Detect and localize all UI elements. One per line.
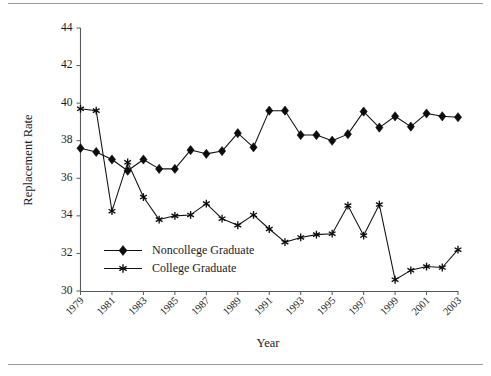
y-tick-label: 34 <box>61 208 73 220</box>
x-tick-label: 1989 <box>221 295 244 318</box>
data-point-marker <box>423 109 430 118</box>
y-axis-title: Replacement Rate <box>21 114 35 206</box>
data-point-marker <box>376 201 383 209</box>
y-tick-label: 38 <box>61 133 73 145</box>
data-point-marker <box>203 149 210 158</box>
data-point-marker <box>392 276 399 284</box>
data-point-marker <box>282 238 289 246</box>
x-tick-label: 1997 <box>346 295 369 318</box>
x-tick-label: 2001 <box>409 295 432 318</box>
x-tick-label: 1987 <box>189 295 212 318</box>
data-point-marker <box>439 112 446 121</box>
x-tick-label: 1983 <box>126 295 149 318</box>
x-tick-label: 1995 <box>315 295 338 318</box>
data-point-marker <box>360 232 367 240</box>
y-tick-label-group: 3032343638404244 <box>61 21 73 296</box>
legend-label-college: College Graduate <box>152 261 236 275</box>
y-tick-label: 42 <box>61 58 73 70</box>
college-graduate-markers <box>77 105 461 284</box>
x-tick-label: 1981 <box>95 295 118 318</box>
y-tick-label: 30 <box>61 284 73 296</box>
data-point-marker <box>329 136 336 145</box>
legend-label-noncollege: Noncollege Graduate <box>152 243 254 257</box>
legend-entry-college: College Graduate <box>104 261 236 275</box>
data-point-marker <box>345 202 352 210</box>
y-tick-group <box>77 28 81 291</box>
data-point-marker <box>313 130 320 139</box>
x-tick-label: 1979 <box>63 295 86 318</box>
data-point-marker <box>108 155 115 164</box>
y-tick-label: 44 <box>61 21 73 33</box>
y-axis: 3032343638404244 <box>61 21 81 296</box>
x-tick-label-group: 1979198119831985198719891991199319951997… <box>63 295 463 318</box>
data-point-marker <box>266 106 273 115</box>
legend-diamond-icon <box>119 246 127 256</box>
y-tick-label: 36 <box>61 171 73 183</box>
data-point-marker <box>407 122 414 131</box>
x-tick-label: 1991 <box>252 295 275 318</box>
x-axis: 1979198119831985198719891991199319951997… <box>63 291 463 317</box>
replacement-rate-line-chart: 3032343638404244 19791981198319851987198… <box>0 0 491 376</box>
data-point-marker <box>93 147 100 156</box>
x-axis-title: Year <box>256 336 280 350</box>
x-tick-label: 1999 <box>378 295 401 318</box>
figure-container: 3032343638404244 19791981198319851987198… <box>0 0 491 376</box>
data-point-marker <box>250 143 257 152</box>
y-tick-label: 32 <box>61 246 73 258</box>
y-tick-label: 40 <box>61 96 73 108</box>
x-tick-label: 2003 <box>441 295 464 318</box>
chart-legend: Noncollege Graduate College Graduate <box>104 243 254 275</box>
data-point-marker <box>140 155 147 164</box>
data-point-marker <box>156 164 163 173</box>
college-graduate-line <box>81 109 459 280</box>
data-point-marker <box>391 112 398 121</box>
noncollege-graduate-line <box>81 111 459 171</box>
data-point-marker <box>234 221 241 229</box>
noncollege-graduate-markers <box>77 106 462 175</box>
data-point-marker <box>124 158 131 166</box>
data-point-marker <box>77 144 84 153</box>
data-point-marker <box>109 207 116 215</box>
plot-area <box>77 105 462 284</box>
legend-entry-noncollege: Noncollege Graduate <box>104 243 254 257</box>
x-tick-label: 1993 <box>283 295 306 318</box>
data-point-marker <box>407 266 414 274</box>
x-tick-label: 1985 <box>158 295 181 318</box>
data-point-marker <box>454 113 461 122</box>
